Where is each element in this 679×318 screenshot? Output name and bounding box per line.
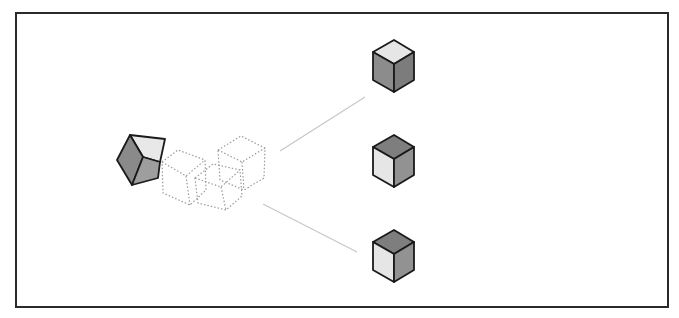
connector-line-upper [280,97,365,151]
target-cube-top [373,40,414,92]
ghost-cube-2 [195,164,242,210]
connector-line-lower [263,204,357,252]
diagram-canvas [0,0,679,318]
ghost-cubes [162,136,265,210]
ghost-cube-1 [162,150,206,205]
target-cube-bottom [373,230,414,282]
ghost-cube-3 [218,136,265,190]
source-cube [117,135,165,185]
target-cube-middle [373,135,414,187]
